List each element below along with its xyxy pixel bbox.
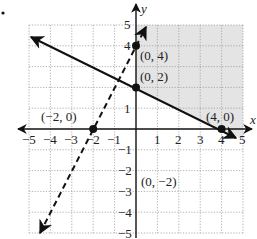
problem-marker-icon bbox=[1, 11, 4, 14]
x-tick-labels: −5 −4 −3 −2 −1 1 2 3 4 5 bbox=[22, 132, 246, 147]
y-tick: 1 bbox=[124, 101, 131, 116]
label-point-0-neg2: (0, −2) bbox=[141, 174, 177, 189]
x-tick: −5 bbox=[22, 132, 36, 147]
label-point-0-2: (0, 2) bbox=[140, 69, 168, 84]
label-point-4-0: (4, 0) bbox=[206, 109, 234, 124]
point-0-4 bbox=[132, 42, 140, 50]
x-tick: 3 bbox=[197, 132, 204, 147]
x-tick: 5 bbox=[239, 132, 246, 147]
y-tick: −3 bbox=[118, 184, 132, 199]
coordinate-graph: (0, 4) (0, 2) (4, 0) (−2, 0) (0, −2) y x… bbox=[0, 0, 257, 239]
label-point-0-4: (0, 4) bbox=[140, 48, 168, 63]
x-tick: 2 bbox=[175, 132, 182, 147]
y-axis-label: y bbox=[139, 1, 147, 16]
y-tick: −5 bbox=[118, 226, 132, 239]
y-tick: −1 bbox=[118, 142, 132, 157]
x-tick: 1 bbox=[154, 132, 161, 147]
x-tick: 4 bbox=[218, 132, 225, 147]
y-tick-labels: 5 4 1 −1 −2 −3 −4 −5 bbox=[118, 17, 132, 239]
y-tick: −4 bbox=[118, 205, 132, 220]
y-tick: −2 bbox=[118, 163, 132, 178]
x-tick: −2 bbox=[86, 132, 100, 147]
x-tick: −4 bbox=[43, 132, 57, 147]
y-tick: 5 bbox=[124, 17, 131, 32]
x-axis-label: x bbox=[249, 112, 256, 127]
x-tick: −3 bbox=[64, 132, 78, 147]
y-tick: 4 bbox=[124, 38, 131, 53]
label-point-neg2-0: (−2, 0) bbox=[41, 109, 77, 124]
point-0-2 bbox=[132, 83, 140, 91]
